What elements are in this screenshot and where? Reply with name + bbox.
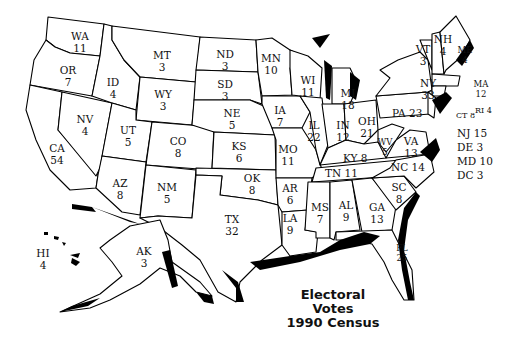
label-ct: CT 8 (456, 111, 475, 120)
label-wy: WY3 (154, 88, 172, 112)
label-hi: HI4 (36, 247, 49, 271)
label-mi: MI18 (341, 87, 356, 111)
label-mo: MO11 (278, 143, 297, 167)
label-la: LA9 (283, 212, 298, 236)
label-ga: GA13 (369, 201, 385, 225)
label-nm: NM5 (157, 181, 177, 205)
label-me: ME4 (458, 45, 473, 65)
label-in: IN12 (336, 119, 349, 143)
label-ri: RI 4 (475, 106, 492, 115)
label-nh: NH4 (434, 33, 452, 57)
map-title: Electoral Votes 1990 Census (268, 288, 398, 330)
label-wv: WV5 (378, 137, 393, 157)
label-md: MD 10 (457, 155, 493, 167)
label-ut: UT5 (120, 124, 136, 148)
label-co: CO8 (170, 135, 187, 159)
label-oh: OH21 (358, 115, 376, 139)
label-ny: NY33 (420, 77, 436, 101)
label-ma: MA12 (474, 79, 489, 99)
title-line-3: 1990 Census (268, 316, 398, 330)
label-nc: NC 14 (391, 161, 425, 173)
label-ms: MS7 (311, 201, 329, 225)
label-ky: KY 8 (343, 152, 368, 164)
label-mt: MT3 (153, 49, 171, 73)
label-ar: AR6 (282, 182, 298, 206)
label-mn: MN10 (261, 52, 281, 76)
label-ok: OK8 (244, 172, 260, 196)
state-ma (432, 74, 460, 86)
label-nv: NV4 (77, 113, 94, 137)
label-ia: IA7 (274, 104, 286, 128)
label-al: AL9 (339, 199, 354, 223)
label-ne: NE5 (224, 107, 241, 131)
label-pa: PA 23 (392, 107, 422, 119)
label-wi: WI11 (301, 74, 316, 98)
label-ak: AK3 (136, 245, 151, 269)
label-id: ID4 (107, 76, 120, 100)
label-tn: TN 11 (325, 167, 358, 179)
label-wa: WA11 (71, 30, 89, 54)
label-or: OR7 (60, 64, 77, 88)
label-ks: KS6 (231, 140, 246, 164)
label-sc: SC8 (391, 181, 406, 205)
label-az: AZ8 (113, 177, 128, 201)
label-dc: DC 3 (457, 169, 483, 181)
label-sd: SD3 (217, 78, 233, 102)
label-fl: FL25 (396, 243, 408, 263)
label-ca: CA54 (49, 142, 65, 166)
title-line-2: Votes (268, 302, 398, 316)
label-de: DE 3 (457, 141, 483, 153)
label-nd: ND3 (216, 48, 234, 72)
label-il: IL22 (307, 119, 320, 143)
label-vt: VT3 (416, 43, 431, 67)
label-nj: NJ 15 (457, 127, 487, 139)
title-line-1: Electoral (268, 288, 398, 302)
label-va: VA13 (404, 135, 418, 159)
label-tx: TX32 (225, 213, 239, 237)
